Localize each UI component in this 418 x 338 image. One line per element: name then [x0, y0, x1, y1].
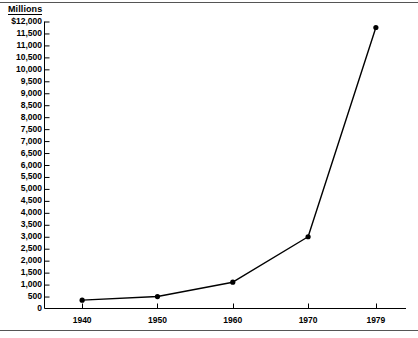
x-axis-tick-label: 1960	[211, 316, 255, 325]
x-axis-tick-label: 1979	[354, 316, 398, 325]
x-axis-tick-label-group: 19401950196019701979	[0, 0, 418, 338]
x-axis-tick-label: 1970	[286, 316, 330, 325]
chart-container: Millions $12,00011,50011,00010,50010,000…	[0, 0, 418, 338]
x-axis-tick-label: 1940	[60, 316, 104, 325]
x-axis-tick-label: 1950	[135, 316, 179, 325]
